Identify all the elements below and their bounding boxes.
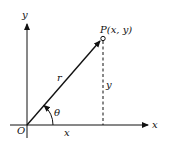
vertical-leg-label: y	[105, 79, 112, 90]
point-p-marker	[101, 36, 105, 40]
angle-arc	[44, 106, 53, 126]
angle-label: θ	[54, 107, 60, 118]
x-axis-label: x	[152, 119, 158, 130]
point-label: P(x, y)	[99, 24, 132, 35]
origin-label: O	[17, 125, 25, 136]
polar-coordinate-diagram: y x O P(x, y) r y x θ	[0, 0, 171, 143]
radius-vector	[27, 41, 100, 125]
radius-label: r	[57, 72, 63, 83]
horizontal-leg-label: x	[64, 127, 70, 138]
y-axis-label: y	[21, 9, 28, 20]
